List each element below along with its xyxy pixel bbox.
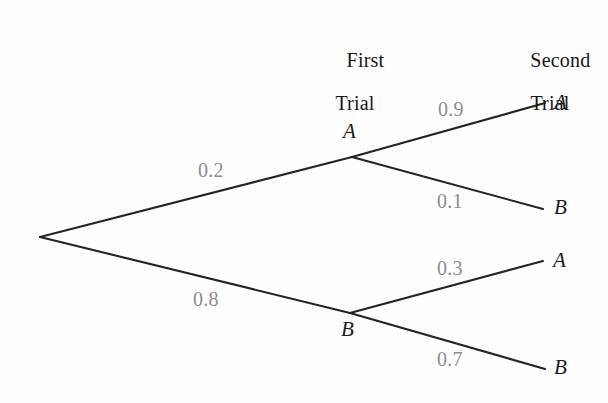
header-second-trial-line2: Trial [498,93,602,115]
branch-root-to-first-a [40,157,352,237]
node-second-trial-b-from-a: B [554,196,567,219]
probability-b-to-b: 0.7 [437,349,463,371]
header-first-trial-line1: First [347,49,385,71]
node-second-trial-a-from-a: A [554,91,567,114]
probability-b-to-a: 0.3 [437,258,463,280]
header-first-trial-line2: Trial [305,93,405,115]
header-second-trial-line1: Second [530,49,590,71]
node-second-trial-a-from-b: A [553,249,566,272]
header-second-trial: Second Trial [498,28,602,158]
node-second-trial-b-from-b: B [554,356,567,379]
probability-a-to-a: 0.9 [438,99,464,121]
probability-root-to-b: 0.8 [193,289,219,311]
probability-root-to-a: 0.2 [198,160,224,182]
node-first-trial-a: A [343,120,356,143]
probability-a-to-b: 0.1 [437,191,463,213]
probability-tree-figure: First Trial Second Trial A B A B A B 0.2… [0,0,608,403]
node-first-trial-b: B [341,318,354,341]
